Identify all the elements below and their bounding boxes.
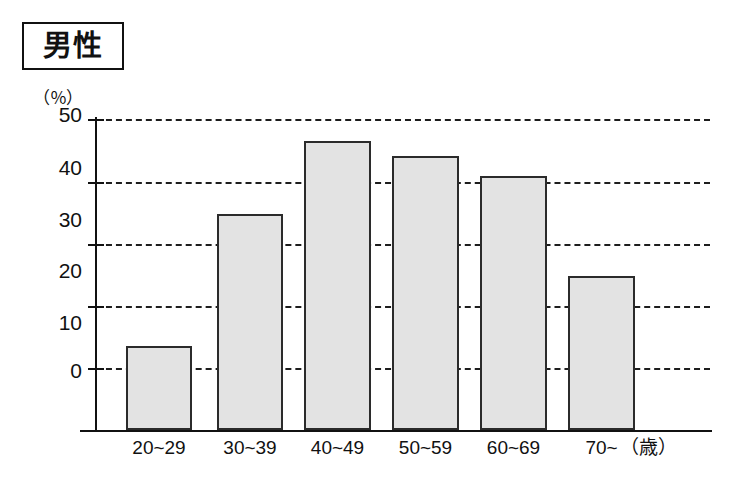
- y-axis-tick-label-text: 30: [36, 209, 82, 230]
- bar: [480, 176, 547, 430]
- x-axis-category-label: 40~49: [288, 438, 388, 457]
- bar: [217, 214, 283, 430]
- bar: [392, 156, 459, 430]
- y-axis-line: [95, 117, 97, 432]
- y-axis-tick-label-text: 50: [36, 104, 82, 125]
- y-axis-tick-label-text: 10: [36, 312, 82, 333]
- bar: [126, 346, 192, 430]
- chart-figure: 男性 （％） 50403020100 20~2930~3940~4950~596…: [0, 0, 732, 491]
- gridline: [96, 119, 710, 121]
- bar: [304, 141, 371, 430]
- y-axis-tick-label-text: 40: [36, 157, 82, 178]
- x-axis-category-label: 50~59: [376, 438, 476, 457]
- x-axis-line: [80, 430, 712, 432]
- x-axis-category-label: 60~69: [464, 438, 564, 457]
- y-axis-tick-label-text: 0: [36, 360, 82, 381]
- y-axis-tick-label-text: 20: [36, 260, 82, 281]
- bar: [568, 276, 635, 430]
- x-axis-category-label: 20~29: [109, 438, 209, 457]
- plot-area: 50403020100 20~2930~3940~4950~5960~6970~…: [0, 0, 732, 491]
- x-axis-category-label: 30~39: [200, 438, 300, 457]
- x-axis-unit-label: （歳）: [620, 438, 720, 457]
